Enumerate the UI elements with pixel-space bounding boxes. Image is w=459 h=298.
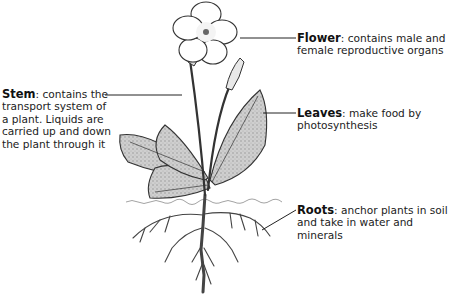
label-roots: Roots: anchor plants in soil and take in… [297,204,459,241]
roots-leader-line [262,210,296,230]
label-leaves-term: Leaves [297,106,342,120]
label-flower-term: Flower [297,31,341,45]
flower-drawing [173,2,237,64]
label-roots-term: Roots [297,203,334,217]
leaves-drawing [120,90,267,198]
leader-lines [105,38,296,230]
roots-drawing [133,195,270,292]
flower-bud-drawing [226,58,244,90]
label-flower: Flower: contains male and female reprodu… [297,32,446,57]
label-stem-term: Stem [2,87,36,101]
label-stem: Stem: contains the transport system of a… [2,88,111,150]
label-leaves: Leaves: make food by photosynthesis [297,107,421,132]
